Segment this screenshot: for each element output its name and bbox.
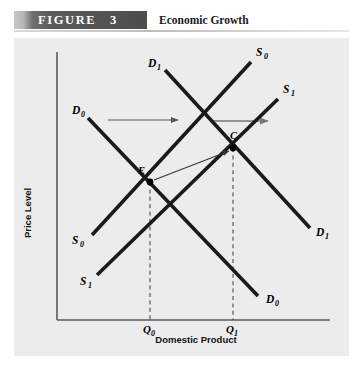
x-tick-q1-sub: 1 xyxy=(234,329,238,338)
figure-number-badge: FIGURE 3 xyxy=(14,11,147,29)
shift-arrows xyxy=(108,120,268,121)
curve-label-s1-sub: 1 xyxy=(291,89,295,98)
curve-label-s0-start-text: S xyxy=(72,234,78,246)
curve-label-d0-end: D 0 xyxy=(265,293,279,308)
curve-label-d1-end: D 1 xyxy=(315,226,329,241)
curve-label-s1-start: S 1 xyxy=(80,275,92,290)
point-c-dot xyxy=(230,145,237,152)
x-tick-q1-text: Q xyxy=(226,323,234,335)
curve-label-s1-start-sub: 1 xyxy=(88,281,92,290)
curve-label-d1-text: D xyxy=(147,57,157,69)
curve-label-s1-start-text: S xyxy=(80,275,86,287)
figure-badge-number: 3 xyxy=(110,12,116,29)
x-tick-q0-text: Q xyxy=(143,323,151,335)
curve-label-d0-end-sub: 0 xyxy=(275,299,279,308)
curve-label-d1-end-sub: 1 xyxy=(325,232,329,241)
curve-label-d1-start: D 1 xyxy=(147,57,161,72)
figure-badge-label: FIGURE xyxy=(38,12,96,29)
point-e-dot xyxy=(147,179,154,186)
curve-s1 xyxy=(97,99,278,275)
curve-label-d0-end-text: D xyxy=(265,293,275,305)
point-label-e: E xyxy=(137,165,145,176)
curve-label-s0-start: S 0 xyxy=(72,234,84,249)
chart-panel: Price Level Domestic Product E C xyxy=(14,38,349,356)
curve-label-s0-text: S xyxy=(256,46,262,58)
point-label-c: C xyxy=(230,130,238,141)
curve-label-d0-start: D 0 xyxy=(71,104,85,119)
x-tick-q0-sub: 0 xyxy=(151,329,155,338)
curve-label-d1-sub: 1 xyxy=(157,63,161,72)
figure-title: Economic Growth xyxy=(159,12,249,29)
curve-label-s1-text: S xyxy=(283,83,289,95)
figure-header: FIGURE 3 Economic Growth xyxy=(14,11,349,29)
curve-label-s1-end: S 1 xyxy=(283,83,295,98)
curve-label-s0-end: S 0 xyxy=(256,46,268,61)
x-tick-q0: Q 0 xyxy=(143,323,155,338)
curve-label-d0-sub: 0 xyxy=(81,110,85,119)
curve-label-d0-text: D xyxy=(71,104,81,116)
curve-label-d1-end-text: D xyxy=(315,226,325,238)
curve-label-s0-start-sub: 0 xyxy=(80,240,84,249)
header-divider xyxy=(14,30,349,32)
curve-label-s0-sub: 0 xyxy=(264,52,268,61)
x-axis-title: Domestic Product xyxy=(155,334,237,345)
curves xyxy=(88,62,310,296)
y-axis-title: Price Level xyxy=(22,188,33,238)
economic-growth-chart: Price Level Domestic Product E C xyxy=(14,38,349,356)
equilibrium-droplines xyxy=(150,148,233,320)
